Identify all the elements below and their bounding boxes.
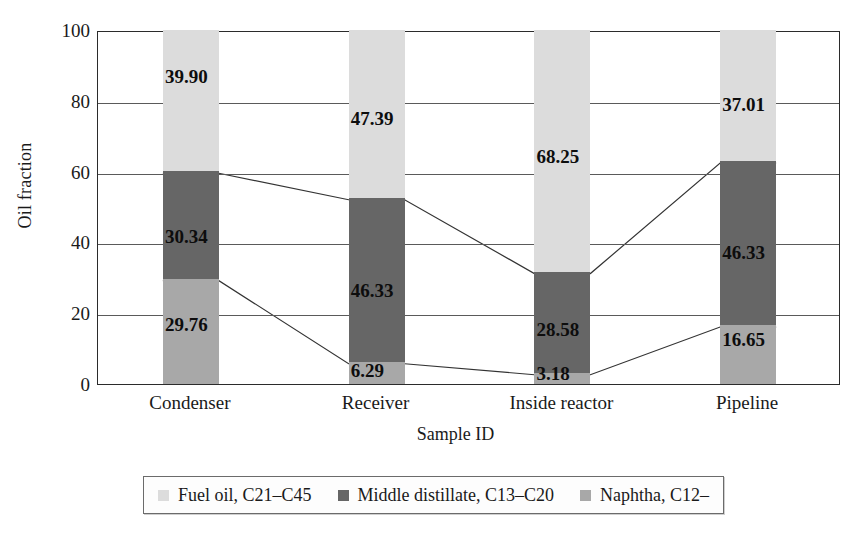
legend-item[interactable]: Fuel oil, C21–C45 [158,485,312,505]
plot-area: 39.9030.3429.7647.3946.336.2968.2528.583… [97,31,840,385]
bar-segment-value-label: 46.33 [722,243,765,262]
y-axis-tick-label: 0 [44,375,90,394]
bar-segment-value-label: 30.34 [165,227,208,246]
bar-segment-value-label: 46.33 [351,281,394,300]
legend-swatch-icon [158,490,169,501]
legend-item-label: Naphtha, C12– [600,485,709,505]
x-axis-title-text: Sample ID [367,424,494,444]
x-axis-tick-label: Receiver [276,392,476,414]
legend-item-label: Middle distillate, C13–C20 [358,485,555,505]
legend-item[interactable]: Middle distillate, C13–C20 [338,485,555,505]
x-axis-tick-label: Inside reactor [461,392,661,414]
x-axis-tick-label: Condenser [90,392,290,414]
y-axis-tick-label: 80 [44,92,90,111]
bar-segment-value-label: 37.01 [722,95,765,114]
bar-segment-value-label: 68.25 [536,147,579,166]
x-axis-title: Sample ID [0,424,861,445]
bar-stack[interactable]: 47.3946.336.29 [349,30,405,384]
bar-segment-value-label: 6.29 [351,361,384,380]
bar-segment-value-label: 39.90 [165,67,208,86]
legend-item[interactable]: Naphtha, C12– [580,485,709,505]
chart-legend: Fuel oil, C21–C45Middle distillate, C13–… [143,476,724,514]
bar-segment-value-label: 28.58 [536,320,579,339]
y-axis-tick-label: 100 [44,21,90,40]
bar-stack[interactable]: 39.9030.3429.76 [163,30,219,384]
bar-segment[interactable] [163,30,219,171]
y-axis-tick-label: 40 [44,233,90,252]
y-axis-tick-label: 20 [44,304,90,323]
bar-stack[interactable]: 37.0146.3316.65 [720,30,776,384]
bar-stack[interactable]: 68.2528.583.18 [534,30,590,384]
y-axis-title: Oil fraction [15,116,36,256]
connector-line [163,163,776,274]
bar-segment-value-label: 29.76 [165,315,208,334]
bar-segment[interactable] [163,171,219,278]
legend-swatch-icon [580,490,591,501]
bar-segment-value-label: 47.39 [351,109,394,128]
connector-line [163,281,776,375]
legend-item-label: Fuel oil, C21–C45 [178,485,312,505]
bar-segment-value-label: 16.65 [722,330,765,349]
y-axis-tick-label: 60 [44,163,90,182]
y-axis-tick-labels: 020406080100 [34,31,90,385]
stacked-bar-chart-figure: Oil fraction 020406080100 39.9030.3429.7… [0,0,861,548]
bar-segment-value-label: 3.18 [536,364,569,383]
x-axis-tick-label: Pipeline [647,392,847,414]
legend-swatch-icon [338,490,349,501]
